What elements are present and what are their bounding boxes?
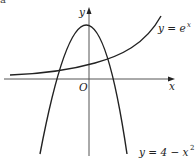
- exponential-label-main: y = e: [157, 22, 186, 34]
- y-axis-arrow-icon: [87, 7, 92, 14]
- x-axis-label: x: [169, 80, 175, 92]
- y-axis-label: y: [78, 6, 86, 18]
- origin-label: O: [79, 81, 88, 93]
- exponential-label-sup: x: [187, 21, 191, 29]
- parabola-label: y = 4 − x 2: [138, 144, 194, 158]
- parabola-label-main: y = 4 − x: [138, 146, 189, 158]
- exponential-label: y = e x: [157, 21, 191, 34]
- parabola-label-sup: 2: [190, 144, 194, 152]
- graph-diagram: y x O y = e x y = 4 − x 2: [0, 0, 196, 160]
